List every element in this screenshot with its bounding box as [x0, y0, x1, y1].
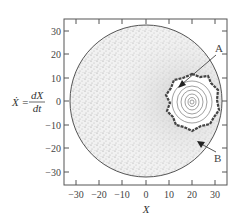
y-tick-labels: 30 20 10 0 −10 −20 −30 — [45, 26, 61, 178]
svg-text:0: 0 — [56, 96, 61, 107]
svg-text:−30: −30 — [45, 167, 61, 178]
svg-text:dt: dt — [33, 102, 43, 114]
svg-text:10: 10 — [164, 189, 174, 200]
svg-text:−30: −30 — [68, 189, 84, 200]
svg-text:30: 30 — [51, 26, 61, 37]
svg-text:Ẋ =: Ẋ = — [11, 96, 29, 108]
svg-text:−20: −20 — [91, 189, 107, 200]
svg-text:30: 30 — [210, 189, 220, 200]
svg-text:20: 20 — [51, 49, 61, 60]
x-tick-labels: −30 −20 −10 0 10 20 30 — [68, 189, 220, 200]
svg-text:−10: −10 — [45, 120, 61, 131]
y-axis-label: Ẋ = dX dt — [11, 89, 45, 114]
svg-text:20: 20 — [187, 189, 197, 200]
phase-portrait-figure: −30 −20 −10 0 10 20 30 30 20 10 0 −10 −2… — [0, 0, 244, 222]
svg-text:A: A — [215, 42, 223, 54]
x-axis-label: X — [142, 203, 151, 215]
svg-text:B: B — [214, 152, 221, 164]
svg-text:0: 0 — [144, 189, 149, 200]
svg-text:10: 10 — [51, 73, 61, 84]
svg-text:dX: dX — [31, 89, 45, 101]
svg-text:−10: −10 — [114, 189, 130, 200]
svg-text:−20: −20 — [45, 143, 61, 154]
